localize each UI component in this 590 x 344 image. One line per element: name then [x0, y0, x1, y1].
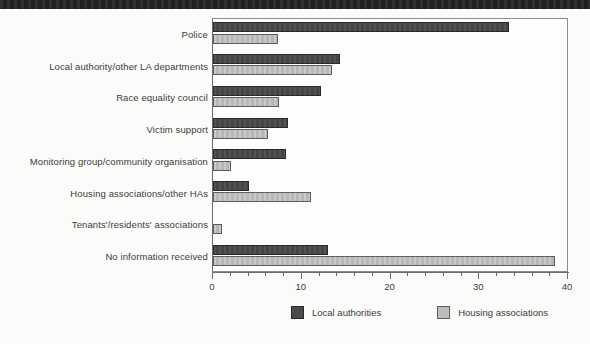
bar-housing-associations [213, 161, 231, 171]
x-axis-tick-label: 30 [473, 281, 484, 292]
category-axis-label: Tenants'/residents' associations [72, 219, 208, 230]
legend-label-housing-associations: Housing associations [458, 307, 548, 318]
bar-housing-associations [213, 34, 278, 44]
bar-housing-associations [213, 256, 555, 266]
category-axis-label: Victim support [147, 124, 208, 135]
category-row: Housing associations/other HAs [0, 177, 590, 209]
bar-group [213, 82, 568, 114]
bar-group [213, 145, 568, 177]
scan-artifact-band [0, 0, 590, 9]
bar-group [213, 240, 568, 272]
bar-group [213, 50, 568, 82]
x-axis-minor-tick [248, 272, 249, 276]
chart-legend: Local authorities Housing associations [291, 306, 548, 319]
legend-label-local-authorities: Local authorities [312, 307, 381, 318]
x-axis-major-tick [567, 272, 568, 279]
x-axis-minor-tick [514, 272, 515, 276]
x-axis-minor-tick [319, 272, 320, 276]
category-row: Tenants'/residents' associations [0, 209, 590, 241]
bar-local-authorities [213, 149, 286, 159]
legend-item-housing-associations: Housing associations [437, 306, 548, 319]
x-axis-major-tick [301, 272, 302, 279]
bar-housing-associations [213, 224, 222, 234]
bar-local-authorities [213, 22, 509, 32]
x-axis-minor-tick [425, 272, 426, 276]
category-row: No information received [0, 240, 590, 272]
x-axis-minor-tick [372, 272, 373, 276]
x-axis-minor-tick [283, 272, 284, 276]
category-row: Race equality council [0, 82, 590, 114]
category-row: Police [0, 18, 590, 50]
x-axis: 010203040 [212, 272, 569, 302]
category-row: Victim support [0, 113, 590, 145]
bar-housing-associations [213, 97, 279, 107]
category-axis-label: No information received [105, 251, 208, 262]
x-axis-minor-tick [265, 272, 266, 276]
x-axis-minor-tick [461, 272, 462, 276]
bar-local-authorities [213, 245, 328, 255]
x-axis-major-tick [212, 272, 213, 279]
bar-housing-associations [213, 65, 332, 75]
category-axis-label: Monitoring group/community organisation [30, 155, 208, 166]
category-row: Local authority/other LA departments [0, 50, 590, 82]
category-row: Monitoring group/community organisation [0, 145, 590, 177]
bar-local-authorities [213, 181, 249, 191]
bar-local-authorities [213, 118, 288, 128]
category-axis-label: Housing associations/other HAs [70, 187, 208, 198]
light-gray-swatch-icon [437, 306, 450, 319]
x-axis-minor-tick [443, 272, 444, 276]
legend-item-local-authorities: Local authorities [291, 306, 381, 319]
x-axis-minor-tick [230, 272, 231, 276]
x-axis-minor-tick [496, 272, 497, 276]
bar-group [213, 113, 568, 145]
category-rows: PoliceLocal authority/other LA departmen… [0, 18, 590, 272]
bar-local-authorities [213, 54, 340, 64]
category-axis-label: Local authority/other LA departments [49, 60, 208, 71]
x-axis-major-tick [390, 272, 391, 279]
category-axis-label: Race equality council [116, 92, 208, 103]
dark-gray-swatch-icon [291, 306, 304, 319]
bar-group [213, 18, 568, 50]
bar-local-authorities [213, 86, 321, 96]
x-axis-major-tick [478, 272, 479, 279]
x-axis-tick-label: 40 [562, 281, 573, 292]
x-axis-minor-tick [354, 272, 355, 276]
chart-page: PoliceLocal authority/other LA departmen… [0, 0, 590, 344]
x-axis-minor-tick [549, 272, 550, 276]
bar-housing-associations [213, 192, 311, 202]
bar-group [213, 209, 568, 241]
x-axis-tick-label: 10 [295, 281, 306, 292]
category-axis-label: Police [182, 28, 208, 39]
x-axis-tick-label: 0 [209, 281, 214, 292]
bar-group [213, 177, 568, 209]
x-axis-tick-label: 20 [384, 281, 395, 292]
x-axis-minor-tick [336, 272, 337, 276]
x-axis-minor-tick [532, 272, 533, 276]
x-axis-minor-tick [407, 272, 408, 276]
bar-housing-associations [213, 129, 268, 139]
